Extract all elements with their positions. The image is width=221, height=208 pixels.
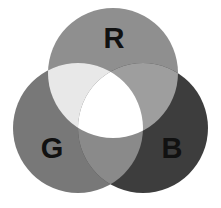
venn-diagram-canvas: R G B — [0, 0, 221, 208]
venn-label-red: R — [104, 22, 125, 54]
venn-label-blue: B — [162, 132, 183, 164]
venn-diagram-figure: R G B — [0, 0, 221, 208]
venn-label-green: G — [41, 132, 64, 164]
